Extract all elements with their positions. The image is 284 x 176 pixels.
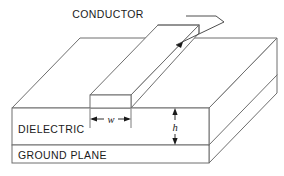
figure-canvas: w h CONDUCTOR DIELECTRIC GROUND PLANE (0, 0, 284, 176)
conductor-front-face (90, 95, 131, 108)
microstrip-diagram: w h CONDUCTOR DIELECTRIC GROUND PLANE (0, 0, 284, 176)
height-label: h (172, 122, 177, 133)
ground-plane-label: GROUND PLANE (18, 149, 107, 161)
conductor-leader-upper-segment (186, 16, 224, 22)
conductor-label: CONDUCTOR (72, 8, 144, 20)
dielectric-label: DIELECTRIC (18, 123, 84, 135)
width-label: w (107, 114, 114, 125)
